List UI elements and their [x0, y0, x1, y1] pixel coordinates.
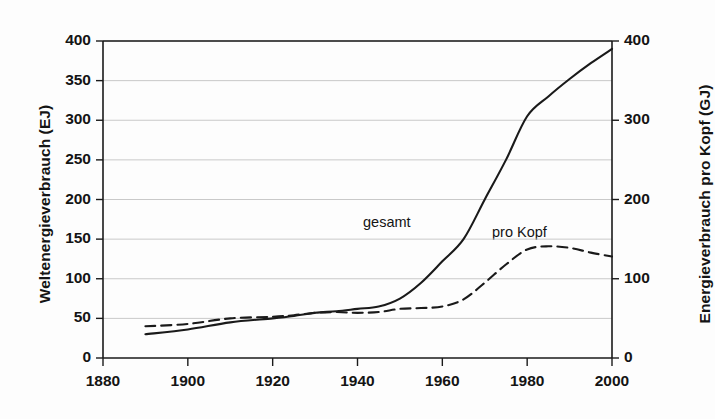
series-line-pro-kopf — [145, 246, 612, 326]
chart-figure: Weltenergieverbrauch (EJ) Energieverbrau… — [0, 0, 715, 419]
series-line-gesamt — [145, 49, 612, 334]
plot-area — [0, 0, 715, 419]
